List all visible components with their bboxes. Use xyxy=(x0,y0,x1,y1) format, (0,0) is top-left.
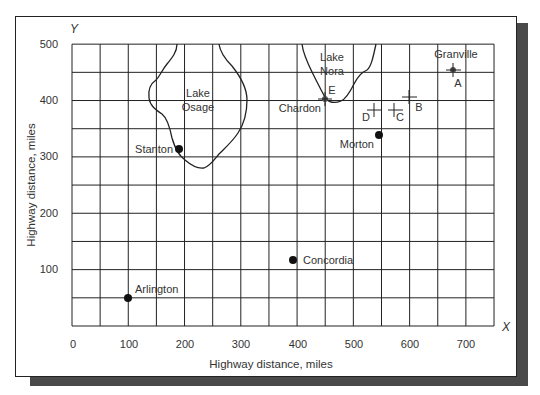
x-tick-labels: 0 100 200 300 400 500 600 700 xyxy=(70,338,475,350)
city-label: Arlington xyxy=(135,283,178,295)
x-tick-label: 100 xyxy=(120,338,138,350)
city-label: Stanton xyxy=(135,143,173,155)
y-axis-letter: Y xyxy=(70,22,79,36)
x-tick-label: 700 xyxy=(457,338,475,350)
city-morton: Morton xyxy=(340,131,383,150)
city-label: Morton xyxy=(340,138,374,150)
lake-nora-label-line2: Nora xyxy=(320,65,345,77)
x-axis-title: Highway distance, miles xyxy=(209,358,333,370)
city-label: Granville xyxy=(434,48,477,60)
city-label: Chardon xyxy=(279,102,321,114)
city-label: Concordia xyxy=(303,254,354,266)
chart-svg: Y X 500 400 300 200 100 0 100 200 300 40… xyxy=(0,0,540,395)
y-axis-title: Highway distance, miles xyxy=(25,123,37,247)
point-c: C xyxy=(388,103,404,123)
x-axis-letter: X xyxy=(501,320,511,334)
city-chardon: Chardon E xyxy=(279,84,336,114)
y-tick-label: 100 xyxy=(40,263,58,275)
city-granville: Granville A xyxy=(434,48,477,89)
x-tick-label: 500 xyxy=(345,338,363,350)
x-tick-label: 300 xyxy=(232,338,250,350)
x-tick-label: 400 xyxy=(289,338,307,350)
x-tick-label: 600 xyxy=(401,338,419,350)
point-label: C xyxy=(396,111,404,123)
y-tick-label: 200 xyxy=(40,207,58,219)
city-dot-icon xyxy=(175,145,183,153)
lake-osage-label-line2: Osage xyxy=(182,101,214,113)
point-label: B xyxy=(415,101,422,113)
y-tick-label: 400 xyxy=(40,94,58,106)
x-tick-label: 0 xyxy=(70,338,76,350)
y-tick-label: 500 xyxy=(40,38,58,50)
city-arlington: Arlington xyxy=(124,283,178,302)
point-d: D xyxy=(362,103,381,123)
point-label: A xyxy=(454,77,462,89)
point-label: D xyxy=(362,111,370,123)
point-label: E xyxy=(328,84,335,96)
city-dot-icon xyxy=(289,256,297,264)
point-b: B xyxy=(402,90,423,113)
city-dot-icon xyxy=(124,294,132,302)
x-tick-label: 200 xyxy=(176,338,194,350)
y-tick-labels: 500 400 300 200 100 xyxy=(40,38,58,275)
lake-osage-label-line1: Lake xyxy=(186,87,210,99)
city-dot-icon xyxy=(375,131,383,139)
y-tick-label: 300 xyxy=(40,150,58,162)
city-concordia: Concordia xyxy=(289,254,354,266)
lake-nora-label-line1: Lake xyxy=(320,51,344,63)
city-stanton: Stanton xyxy=(135,143,183,155)
